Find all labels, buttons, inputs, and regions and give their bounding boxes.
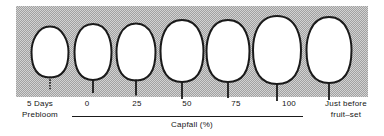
berry-5 xyxy=(207,20,250,98)
berry-3 xyxy=(117,24,156,96)
berry-outline-5 xyxy=(207,20,250,82)
berry-6 xyxy=(253,16,301,101)
stage-label-fruitset-line1: Just before xyxy=(310,99,382,110)
berry-development-figure: 0255075100 Capfall (%) 5 Days Prebloom J… xyxy=(0,0,384,136)
capfall-tick-75: 75 xyxy=(216,99,256,108)
berry-1 xyxy=(32,27,69,91)
berry-outline-6 xyxy=(253,16,301,84)
stage-label-prebloom: 5 Days Prebloom xyxy=(8,99,72,120)
stage-label-prebloom-line2: Prebloom xyxy=(8,110,72,121)
capfall-tick-0: 0 xyxy=(67,99,107,108)
berry-7 xyxy=(307,17,352,100)
berry-2 xyxy=(75,24,112,93)
capfall-tick-25: 25 xyxy=(117,99,157,108)
berry-outline-3 xyxy=(117,24,156,81)
axis-caption-capfall: Capfall (%) xyxy=(0,120,384,129)
berry-outline-4 xyxy=(161,20,204,82)
stage-label-fruitset: Just before fruit–set xyxy=(310,99,382,120)
capfall-axis-line xyxy=(72,116,303,117)
capfall-tick-100: 100 xyxy=(269,99,309,108)
stage-label-prebloom-line1: 5 Days xyxy=(8,99,72,110)
stage-label-fruitset-line2: fruit–set xyxy=(310,110,382,121)
capfall-tick-50: 50 xyxy=(167,99,207,108)
berry-4 xyxy=(161,20,204,99)
berry-outline-1 xyxy=(32,27,69,78)
berry-outline-7 xyxy=(307,17,352,83)
berry-outline-2 xyxy=(75,24,112,80)
